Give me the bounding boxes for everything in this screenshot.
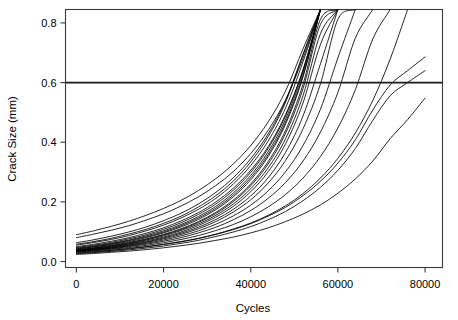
crack-growth-curve [76,0,329,248]
crack-growth-curve [76,98,425,254]
x-tick-label: 0 [73,278,79,290]
x-tick-label: 80000 [410,278,441,290]
crack-growth-curve [76,0,329,247]
crack-growth-curve [76,0,399,252]
crack-growth-curve [76,0,329,244]
crack-growth-curve-group [76,0,425,254]
crack-growth-chart: 0.00.20.40.60.8 020000400006000080000 Cy… [0,0,458,320]
y-tick-label: 0.6 [41,77,56,89]
crack-growth-curve [76,0,346,251]
x-tick-label: 20000 [148,278,179,290]
chart-canvas: 0.00.20.40.60.8 020000400006000080000 Cy… [0,0,458,320]
x-axis-tick-group: 020000400006000080000 [73,268,440,290]
y-axis-title: Crack Size (mm) [6,96,18,182]
y-axis-tick-group: 0.00.20.40.60.8 [41,17,65,268]
crack-growth-curve [76,0,364,251]
crack-growth-curve [76,57,425,253]
y-tick-label: 0.8 [41,17,56,29]
y-tick-label: 0.2 [41,196,56,208]
crack-growth-curve [76,0,329,249]
x-tick-label: 60000 [323,278,354,290]
x-axis-title: Cycles [236,302,271,314]
y-tick-label: 0.0 [41,256,56,268]
y-tick-label: 0.4 [41,136,56,148]
crack-growth-curve [76,5,364,252]
x-tick-label: 40000 [235,278,266,290]
crack-growth-curve [76,0,416,253]
plot-frame [66,10,443,268]
crack-growth-curve [76,0,381,252]
